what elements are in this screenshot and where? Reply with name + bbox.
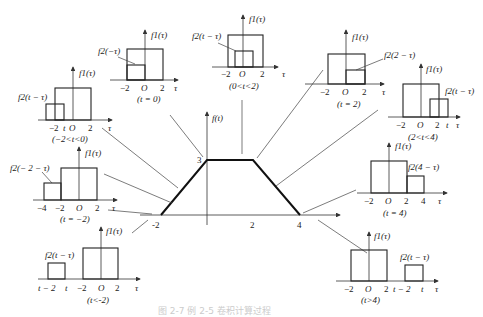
svg-text:f1(τ): f1(τ) xyxy=(151,30,167,40)
svg-text:2: 2 xyxy=(404,196,409,206)
svg-text:(t = −2): (t = −2) xyxy=(60,214,90,224)
svg-text:τ: τ xyxy=(456,120,460,130)
svg-text:−2: −2 xyxy=(344,284,354,294)
svg-text:τ: τ xyxy=(108,123,112,133)
svg-text:f1(τ): f1(τ) xyxy=(85,148,101,158)
panel-neg2-lt-t-lt-0: f1(τ) f2(t − τ) −2tO2τ (−2<t<0) xyxy=(18,67,112,144)
svg-text:f2(4 − τ): f2(4 − τ) xyxy=(408,162,439,172)
main-ylabel: f(t) xyxy=(212,113,223,123)
peak-label: 3 xyxy=(197,155,202,165)
svg-text:τ: τ xyxy=(282,69,286,79)
panel-t-eq-2: f1(τ) f2(2 − τ) −2O2τ (t = 2) xyxy=(305,30,415,109)
svg-text:τ: τ xyxy=(174,83,178,93)
svg-text:(t = 0): (t = 0) xyxy=(137,94,161,104)
svg-text:O: O xyxy=(239,69,246,79)
svg-text:t: t xyxy=(446,120,449,130)
convolution-diagram: f(t) 3 -2 2 4 f1(τ) f2(t − τ) −2tO2τ (−2… xyxy=(0,0,483,317)
panel-2-lt-t-lt-4: f1(τ) f2(t − τ) −2O2tτ (2<t<4) xyxy=(388,64,474,142)
svg-text:−2: −2 xyxy=(120,83,130,93)
svg-text:2: 2 xyxy=(95,203,100,213)
svg-text:O: O xyxy=(141,83,148,93)
svg-text:−4: −4 xyxy=(37,203,47,213)
svg-text:t: t xyxy=(65,283,68,293)
panel-0-lt-t-lt-2: f1(τ) f2(t − τ) −2O2τ (0<t<2) xyxy=(192,14,286,91)
svg-text:−2: −2 xyxy=(320,87,330,97)
svg-text:(t = 4): (t = 4) xyxy=(383,208,407,218)
svg-text:f1(τ): f1(τ) xyxy=(352,32,368,42)
svg-text:2: 2 xyxy=(160,83,165,93)
svg-text:2: 2 xyxy=(362,87,367,97)
svg-text:τ: τ xyxy=(438,196,442,206)
svg-text:(2<t<4): (2<t<4) xyxy=(408,132,438,142)
svg-text:τ: τ xyxy=(135,283,139,293)
svg-text:f2(−τ): f2(−τ) xyxy=(98,46,120,56)
svg-text:4: 4 xyxy=(421,196,426,206)
svg-text:O: O xyxy=(69,123,76,133)
svg-text:(−2<t<0): (−2<t<0) xyxy=(52,134,88,144)
panel-t-eq-0: f1(τ) f2(−τ) −2O2τ (t = 0) xyxy=(98,30,178,104)
svg-text:−2: −2 xyxy=(221,69,231,79)
svg-text:f2(− 2 − τ): f2(− 2 − τ) xyxy=(10,163,50,173)
svg-text:2: 2 xyxy=(88,123,93,133)
svg-text:f1(τ): f1(τ) xyxy=(395,141,411,151)
svg-text:O: O xyxy=(98,283,105,293)
svg-text:τ: τ xyxy=(382,87,386,97)
main-plot: f(t) 3 -2 2 4 xyxy=(140,112,340,230)
panel-t-gt-4: f1(τ) f2(t − τ) −2O2t − 2tτ (t>4) xyxy=(336,231,439,305)
xtick-2: 2 xyxy=(250,220,255,230)
svg-text:2: 2 xyxy=(435,120,440,130)
svg-text:O: O xyxy=(385,196,392,206)
svg-text:t − 2: t − 2 xyxy=(393,284,411,294)
svg-text:O: O xyxy=(417,120,424,130)
svg-text:f2(t − τ): f2(t − τ) xyxy=(18,92,47,102)
svg-text:O: O xyxy=(365,284,372,294)
svg-text:(0<t<2): (0<t<2) xyxy=(229,81,259,91)
svg-text:t: t xyxy=(63,123,66,133)
svg-text:f1(τ): f1(τ) xyxy=(249,14,265,24)
svg-text:(t>4): (t>4) xyxy=(361,295,380,305)
svg-text:O: O xyxy=(342,87,349,97)
svg-text:2: 2 xyxy=(260,69,265,79)
svg-text:f1(τ): f1(τ) xyxy=(374,231,390,241)
svg-text:τ: τ xyxy=(435,284,439,294)
svg-text:τ: τ xyxy=(112,203,116,213)
svg-text:−2: −2 xyxy=(77,283,87,293)
svg-text:f1(τ): f1(τ) xyxy=(426,64,442,74)
panel-t-eq-4: f1(τ) f2(4 − τ) −2O24τ (t = 4) xyxy=(357,141,447,218)
svg-text:−2: −2 xyxy=(364,196,374,206)
svg-text:(t = 2): (t = 2) xyxy=(337,99,361,109)
xtick-neg2: -2 xyxy=(152,220,160,230)
trapezoid-curve xyxy=(161,160,300,215)
svg-text:(t<-2): (t<-2) xyxy=(87,295,109,305)
svg-text:−2: −2 xyxy=(49,123,59,133)
svg-text:−2: −2 xyxy=(396,120,406,130)
svg-text:t − 2: t − 2 xyxy=(38,283,56,293)
svg-text:f2(2 − τ): f2(2 − τ) xyxy=(384,50,415,60)
svg-text:O: O xyxy=(76,203,83,213)
svg-text:f1(τ): f1(τ) xyxy=(79,68,95,78)
svg-text:2: 2 xyxy=(115,283,120,293)
svg-text:f1(τ): f1(τ) xyxy=(106,226,122,236)
figure-caption: 图 2-7 例 2-5 卷积计算过程 xyxy=(158,305,271,316)
svg-text:f2(t − τ): f2(t − τ) xyxy=(445,86,474,96)
panel-t-eq-neg2: f1(τ) f2(− 2 − τ) −4−2O2τ (t = −2) xyxy=(10,147,117,224)
svg-text:f2(t − τ): f2(t − τ) xyxy=(45,250,74,260)
svg-text:f2(t − τ): f2(t − τ) xyxy=(192,31,221,41)
svg-text:f2(t − τ): f2(t − τ) xyxy=(400,252,429,262)
svg-text:−2: −2 xyxy=(55,203,65,213)
xtick-4: 4 xyxy=(297,220,302,230)
panel-t-lt-neg2: f1(τ) f2(t − τ) t − 2t−2O2τ (t<-2) xyxy=(38,226,140,305)
svg-text:t: t xyxy=(421,284,424,294)
svg-text:2: 2 xyxy=(384,284,389,294)
